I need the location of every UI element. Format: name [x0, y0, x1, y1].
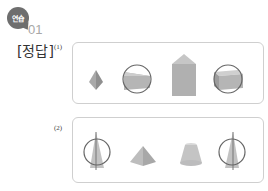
truncated-cone-icon	[178, 140, 204, 168]
problem-number: 01	[28, 22, 42, 37]
rectangular-prism-circled-icon	[210, 62, 246, 96]
answer-label: [정답]	[17, 40, 54, 60]
triangular-prism-circled-icon	[120, 62, 154, 96]
part-1-label: (1)	[54, 43, 62, 51]
badge-label: 연습	[12, 13, 24, 23]
square-pyramid-icon	[86, 68, 106, 92]
square-pyramid-2-icon	[128, 144, 158, 168]
pentagonal-prism-icon	[170, 52, 198, 98]
cone-circled-2-icon	[217, 130, 247, 174]
part-2-label: (2)	[54, 124, 62, 132]
cone-circled-icon	[82, 130, 112, 174]
